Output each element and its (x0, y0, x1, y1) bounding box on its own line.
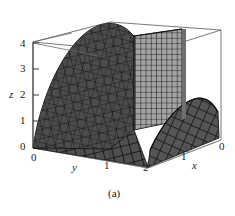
z-tick-label-4: 4 (20, 38, 26, 49)
z-tick-label-0: 0 (20, 141, 26, 152)
z-tick-label-1: 1 (20, 115, 26, 126)
z-axis-label: z (9, 89, 13, 100)
y-tick-label-2: 2 (143, 162, 149, 173)
figure-3d-surface-plot: 4 3 2 1 0 z 0 y 1 2 1 x 0 (a) (0, 0, 235, 216)
z-tick-label-2: 2 (20, 89, 26, 100)
y-tick-label-0: 0 (31, 152, 37, 163)
x-tick-label-1: 1 (181, 151, 187, 162)
surface-plot-canvas (0, 0, 235, 216)
figure-caption: (a) (108, 188, 120, 199)
wall-lobe-junction (182, 29, 186, 120)
x-axis-label: x (192, 160, 197, 171)
x-tick-label-0: 0 (219, 141, 225, 152)
z-tick-label-3: 3 (20, 63, 26, 74)
y-axis-label: y (72, 162, 77, 173)
surface-main-lobe (33, 23, 134, 149)
y-tick-label-1: 1 (104, 160, 110, 171)
